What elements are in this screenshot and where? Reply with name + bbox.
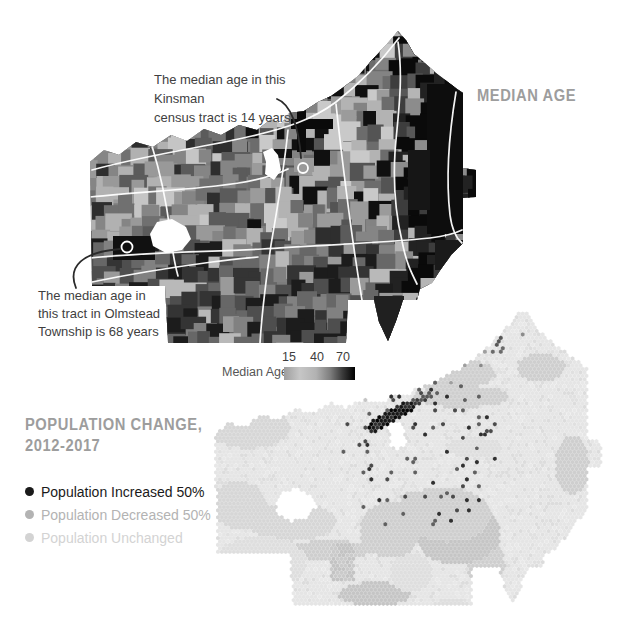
population-change-title-line2: 2012-2017 (25, 435, 202, 456)
legend-label-unchanged: Population Unchanged (41, 530, 183, 546)
median-age-legend-label: Median Age (222, 365, 288, 379)
annotation-kinsman-line1: The median age in this Kinsman (154, 70, 324, 108)
annotation-olmstead-line2: this tract in Olmstead (38, 305, 188, 323)
legend-dot-unchanged (25, 533, 34, 542)
legend-item-decreased: Population Decreased 50% (25, 507, 211, 522)
population-change-title: POPULATION CHANGE, 2012-2017 (25, 414, 202, 456)
median-age-legend: Median Age 15 40 70 (222, 350, 382, 384)
legend-tick-70: 70 (336, 350, 350, 364)
median-age-title: MEDIAN AGE (477, 87, 576, 105)
legend-label-increased: Population Increased 50% (41, 484, 204, 500)
legend-tick-15: 15 (282, 350, 296, 364)
annotation-kinsman-line2: census tract is 14 years (154, 108, 324, 127)
median-age-gradient-bar (284, 367, 355, 380)
legend-dot-increased (25, 487, 34, 496)
infographic-canvas: The median age in this Kinsman census tr… (0, 0, 623, 644)
legend-label-decreased: Population Decreased 50% (41, 507, 211, 523)
annotation-olmstead: The median age in this tract in Olmstead… (38, 287, 188, 341)
legend-tick-40: 40 (310, 350, 324, 364)
annotation-olmstead-line1: The median age in (38, 287, 188, 305)
population-change-title-line1: POPULATION CHANGE, (25, 414, 202, 435)
legend-dot-decreased (25, 510, 34, 519)
legend-item-unchanged: Population Unchanged (25, 530, 211, 545)
legend-item-increased: Population Increased 50% (25, 484, 211, 499)
annotation-olmstead-line3: Township is 68 years (38, 323, 188, 341)
population-change-legend: Population Increased 50% Population Decr… (25, 484, 211, 553)
annotation-kinsman: The median age in this Kinsman census tr… (154, 70, 324, 127)
